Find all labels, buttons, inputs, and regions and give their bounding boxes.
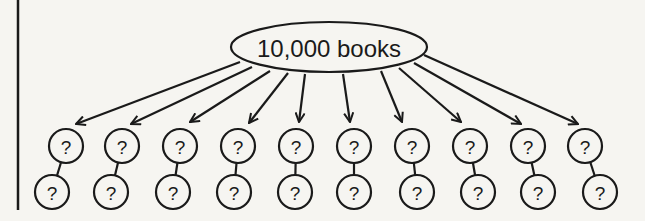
child-node-5-bottom: ? <box>278 175 312 209</box>
child-node-6-top: ? <box>337 129 371 163</box>
arrow-6 <box>343 74 350 122</box>
arrow-1 <box>76 62 240 124</box>
arrow-9 <box>414 63 521 124</box>
unknown-label: ? <box>290 183 301 204</box>
unknown-label: ? <box>47 183 58 204</box>
unknown-label: ? <box>61 137 72 158</box>
child-node-10-top: ? <box>568 129 602 163</box>
unknown-label: ? <box>168 183 179 204</box>
child-node-3-bottom: ? <box>156 175 190 209</box>
child-node-1-bottom: ? <box>35 175 69 209</box>
child-node-4-bottom: ? <box>217 175 251 209</box>
unknown-label: ? <box>523 137 534 158</box>
child-node-4-top: ? <box>221 129 255 163</box>
child-node-9-top: ? <box>511 129 545 163</box>
child-node-10-bottom: ? <box>583 175 617 209</box>
child-node-7-bottom: ? <box>400 175 434 209</box>
child-node-8-bottom: ? <box>461 175 495 209</box>
child-node-5-top: ? <box>279 129 313 163</box>
unknown-label: ? <box>106 183 117 204</box>
unknown-label: ? <box>175 137 186 158</box>
arrow-8 <box>399 68 461 122</box>
child-node-8-top: ? <box>453 129 487 163</box>
arrow-3 <box>190 71 270 122</box>
child-node-7-top: ? <box>395 129 429 163</box>
child-node-6-bottom: ? <box>337 175 371 209</box>
unknown-label: ? <box>580 137 591 158</box>
root-node: 10,000 books <box>231 22 427 72</box>
nodes-group: ???????????????????? <box>35 129 617 209</box>
diagram-canvas: ???????????????????? 10,000 books <box>0 0 645 221</box>
tree-diagram: ???????????????????? 10,000 books <box>0 0 645 221</box>
child-node-1-top: ? <box>49 129 83 163</box>
child-node-3-top: ? <box>163 129 197 163</box>
unknown-label: ? <box>349 183 360 204</box>
arrow-7 <box>381 71 402 122</box>
unknown-label: ? <box>117 137 128 158</box>
child-node-2-bottom: ? <box>94 175 128 209</box>
root-label: 10,000 books <box>257 35 401 62</box>
unknown-label: ? <box>291 137 302 158</box>
unknown-label: ? <box>473 183 484 204</box>
child-node-9-bottom: ? <box>521 175 555 209</box>
unknown-label: ? <box>533 183 544 204</box>
unknown-label: ? <box>465 137 476 158</box>
unknown-label: ? <box>412 183 423 204</box>
child-node-2-top: ? <box>105 129 139 163</box>
unknown-label: ? <box>595 183 606 204</box>
unknown-label: ? <box>407 137 418 158</box>
arrow-5 <box>299 74 305 122</box>
unknown-label: ? <box>229 183 240 204</box>
unknown-label: ? <box>233 137 244 158</box>
unknown-label: ? <box>349 137 360 158</box>
